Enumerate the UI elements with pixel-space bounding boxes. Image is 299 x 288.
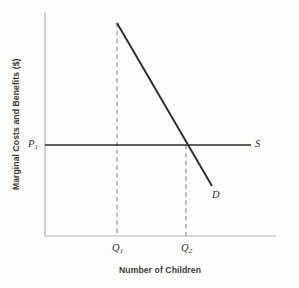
p1-subscript: 1 xyxy=(35,143,39,151)
q1-subscript: 1 xyxy=(120,247,124,255)
economics-supply-demand-chart: Marginal Costs and Benefits ($) Number o… xyxy=(0,0,299,288)
x-axis-tick-label-q1: Q1 xyxy=(112,243,123,254)
y-axis-title: Marginal Costs and Benefits ($) xyxy=(12,44,21,204)
supply-curve-label: S xyxy=(255,139,260,150)
x-axis-title: Number of Children xyxy=(45,266,275,275)
q2-letter: Q xyxy=(181,242,189,253)
demand-curve-line xyxy=(117,23,212,186)
demand-curve-label: D xyxy=(212,190,220,201)
q1-letter: Q xyxy=(112,242,120,253)
x-axis-tick-label-q2: Q2 xyxy=(181,243,192,254)
y-axis-tick-label-p1: P1 xyxy=(28,139,38,150)
p1-letter: P xyxy=(28,138,34,149)
q2-subscript: 2 xyxy=(189,247,193,255)
